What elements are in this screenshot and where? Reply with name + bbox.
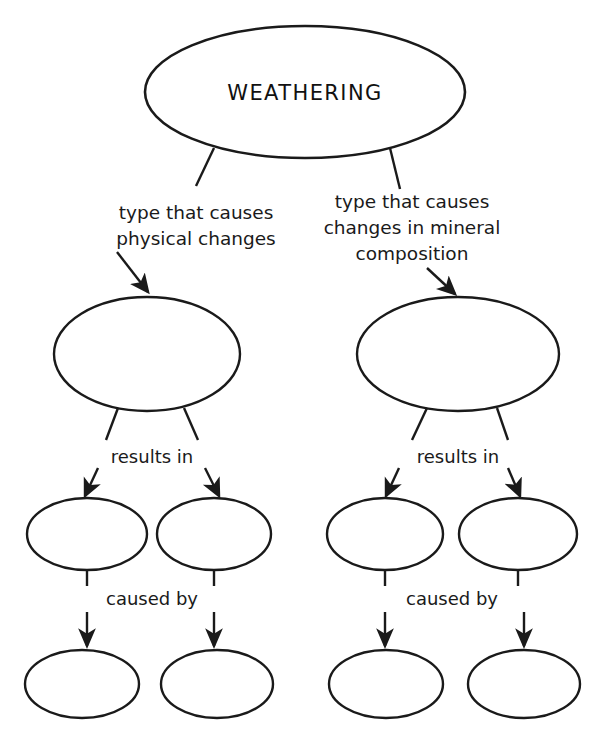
node-right-type-shape — [357, 297, 559, 411]
connector-left-node-fork-b — [184, 408, 198, 440]
node-right-cause-1[interactable] — [329, 650, 443, 718]
arrow-left-results-in-1 — [85, 468, 98, 496]
node-left-result-2-shape — [157, 498, 271, 570]
link-label-right-caused-by: caused by — [406, 588, 498, 609]
node-right-result-2-shape — [459, 498, 577, 570]
branch-label-right-line3: composition — [356, 243, 469, 264]
link-label-left-results-in: results in — [111, 446, 193, 467]
connector-left-node-fork-a — [106, 408, 118, 440]
node-left-type[interactable] — [54, 297, 240, 411]
branch-label-right: type that causes changes in mineral comp… — [324, 191, 501, 264]
connector-root-to-right-label — [390, 148, 400, 189]
node-right-cause-1-shape — [329, 650, 443, 718]
concept-map-canvas: WEATHERING type that causes physical cha… — [0, 0, 610, 748]
node-weathering-label: WEATHERING — [227, 81, 382, 105]
arrow-left-label-to-node — [117, 252, 148, 292]
node-right-result-1[interactable] — [327, 498, 443, 570]
branch-label-left: type that causes physical changes — [116, 202, 275, 249]
node-left-cause-2-shape — [161, 650, 273, 718]
node-left-cause-1[interactable] — [25, 650, 139, 718]
node-right-type[interactable] — [357, 297, 559, 411]
node-weathering[interactable]: WEATHERING — [145, 26, 465, 158]
link-label-left-caused-by: caused by — [106, 588, 198, 609]
link-label-right-results-in: results in — [417, 446, 499, 467]
branch-label-right-line2: changes in mineral — [324, 217, 501, 238]
node-right-result-1-shape — [327, 498, 443, 570]
arrow-right-label-to-node — [427, 268, 455, 294]
branch-label-right-line1: type that causes — [335, 191, 490, 212]
branch-label-left-line2: physical changes — [116, 228, 275, 249]
weathering-concept-map: WEATHERING type that causes physical cha… — [0, 0, 610, 748]
node-left-result-1[interactable] — [27, 498, 147, 570]
node-right-cause-2-shape — [468, 650, 580, 718]
connector-right-node-fork-b — [497, 408, 508, 440]
node-left-result-2[interactable] — [157, 498, 271, 570]
branch-label-left-line1: type that causes — [119, 202, 274, 223]
arrow-right-results-in-1 — [386, 468, 399, 496]
node-left-cause-2[interactable] — [161, 650, 273, 718]
node-left-result-1-shape — [27, 498, 147, 570]
arrow-right-results-in-2 — [508, 468, 520, 496]
node-right-result-2[interactable] — [459, 498, 577, 570]
connector-right-node-fork-a — [412, 408, 427, 440]
node-left-cause-1-shape — [25, 650, 139, 718]
arrow-left-results-in-2 — [205, 468, 219, 496]
node-right-cause-2[interactable] — [468, 650, 580, 718]
connector-root-to-left-label — [196, 148, 214, 186]
node-left-type-shape — [54, 297, 240, 411]
